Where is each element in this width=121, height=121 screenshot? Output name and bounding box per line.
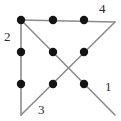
graph-node [80, 48, 88, 56]
edge-label-1: 1 [105, 80, 112, 93]
graph-node [80, 16, 88, 24]
graph-node [17, 80, 25, 88]
graph-node [17, 48, 25, 56]
graph-figure: 4213 [0, 0, 121, 121]
edge-label-4: 4 [99, 2, 106, 15]
graph-node [49, 48, 57, 56]
graph-node [80, 80, 88, 88]
graph-node [17, 16, 25, 24]
edge-label-3: 3 [38, 103, 45, 116]
edges-group [21, 20, 115, 115]
graph-canvas [0, 0, 121, 121]
graph-node [49, 16, 57, 24]
graph-edge-4 [21, 20, 115, 22]
graph-node [49, 80, 57, 88]
edge-label-2: 2 [4, 30, 11, 43]
